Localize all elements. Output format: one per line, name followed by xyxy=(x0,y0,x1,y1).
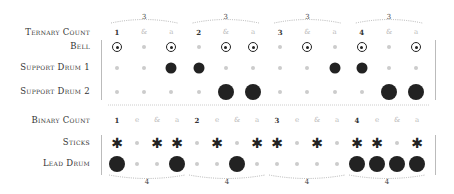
ternary-count-11: & xyxy=(386,28,392,36)
drum-hit-icon xyxy=(329,63,340,74)
rest-dot-icon xyxy=(169,90,173,94)
ternary-row-label-1: Bell xyxy=(70,41,90,51)
rest-dot-icon xyxy=(224,66,228,70)
bell-stroke-icon xyxy=(357,42,367,52)
drum-hit-large-icon xyxy=(169,156,185,172)
rest-dot-icon xyxy=(197,90,201,94)
binary-group-arc-1-label: 4 xyxy=(145,178,150,186)
ternary-count-8: & xyxy=(304,28,310,36)
drum-hit-large-icon xyxy=(349,156,365,172)
binary-count-11: & xyxy=(314,116,320,124)
rest-dot-icon xyxy=(195,141,199,145)
ternary-group-arc-4-label: 3 xyxy=(387,13,391,21)
rest-dot-icon xyxy=(387,45,391,49)
binary-count-7: & xyxy=(234,116,240,124)
ternary-count-12: a xyxy=(414,28,418,36)
rest-dot-icon xyxy=(275,162,279,166)
rest-dot-icon xyxy=(155,162,159,166)
bell-stroke-icon xyxy=(221,42,231,52)
ternary-count-1: 1 xyxy=(115,28,120,37)
bell-stroke-icon xyxy=(411,42,421,52)
binary-count-label: Binary Count xyxy=(31,115,90,125)
ternary-right-bar xyxy=(435,40,436,100)
ternary-count-label: Ternary Count xyxy=(25,27,90,37)
binary-count-3: & xyxy=(154,116,160,124)
rest-dot-icon xyxy=(395,141,399,145)
drum-hit-large-icon xyxy=(369,156,385,172)
drum-hit-large-icon xyxy=(381,84,397,100)
ternary-count-10: 4 xyxy=(359,28,364,37)
rest-dot-icon xyxy=(115,90,119,94)
stick-hit-icon: ✱ xyxy=(171,136,183,150)
binary-group-arc-2-label: 4 xyxy=(225,178,230,186)
drum-hit-large-icon xyxy=(218,84,234,100)
binary-count-6: e xyxy=(215,116,219,124)
drum-hit-large-icon xyxy=(409,156,425,172)
rest-dot-icon xyxy=(278,90,282,94)
stick-hit-icon: ✱ xyxy=(211,136,223,150)
rest-dot-icon xyxy=(135,141,139,145)
rest-dot-icon xyxy=(251,66,255,70)
drum-hit-icon xyxy=(356,63,367,74)
bell-stroke-icon xyxy=(302,42,312,52)
rest-dot-icon xyxy=(360,90,364,94)
binary-count-16: a xyxy=(415,116,419,124)
rest-dot-icon xyxy=(278,45,282,49)
ternary-count-2: & xyxy=(141,28,147,36)
bell-stroke-icon xyxy=(166,42,176,52)
bell-stroke-icon xyxy=(248,42,258,52)
rest-dot-icon xyxy=(295,162,299,166)
stick-hit-icon: ✱ xyxy=(311,136,323,150)
drum-hit-large-icon xyxy=(109,156,125,172)
rest-dot-icon xyxy=(315,162,319,166)
stick-hit-icon: ✱ xyxy=(371,136,383,150)
rest-dot-icon xyxy=(414,66,418,70)
binary-group-arc-3-label: 4 xyxy=(305,178,310,186)
binary-count-14: e xyxy=(375,116,379,124)
ternary-group-arc-3-label: 3 xyxy=(305,13,309,21)
rest-dot-icon xyxy=(215,162,219,166)
ternary-left-bar xyxy=(101,40,102,100)
rest-dot-icon xyxy=(335,141,339,145)
ternary-group-arc-2-label: 3 xyxy=(224,13,228,21)
binary-count-13: 4 xyxy=(355,116,360,125)
drum-hit-icon xyxy=(193,63,204,74)
ternary-count-4: 2 xyxy=(196,28,201,37)
drum-hit-large-icon xyxy=(408,84,424,100)
rest-dot-icon xyxy=(142,90,146,94)
stick-hit-icon: ✱ xyxy=(271,136,283,150)
stick-hit-icon: ✱ xyxy=(411,136,423,150)
binary-row-label-1: Sticks xyxy=(63,137,90,147)
rest-dot-icon xyxy=(278,66,282,70)
binary-count-15: & xyxy=(394,116,400,124)
ternary-count-6: a xyxy=(251,28,255,36)
binary-count-4: a xyxy=(175,116,179,124)
drum-hit-large-icon xyxy=(229,156,245,172)
stick-hit-icon: ✱ xyxy=(111,136,123,150)
drum-hit-icon xyxy=(166,63,177,74)
ternary-count-9: a xyxy=(333,28,337,36)
ternary-row-label-2: Support Drum 1 xyxy=(20,62,90,72)
rest-dot-icon xyxy=(142,45,146,49)
binary-count-12: a xyxy=(335,116,339,124)
stick-hit-icon: ✱ xyxy=(151,136,163,150)
binary-count-9: 3 xyxy=(275,116,280,125)
ternary-count-5: & xyxy=(223,28,229,36)
rest-dot-icon xyxy=(115,66,119,70)
bell-stroke-icon xyxy=(112,42,122,52)
rest-dot-icon xyxy=(335,162,339,166)
rest-dot-icon xyxy=(235,141,239,145)
ternary-count-7: 3 xyxy=(278,28,283,37)
rest-dot-icon xyxy=(135,162,139,166)
binary-count-1: 1 xyxy=(115,116,120,125)
rest-dot-icon xyxy=(305,66,309,70)
binary-count-8: a xyxy=(255,116,259,124)
binary-row-label-2: Lead Drum xyxy=(43,158,90,168)
stick-hit-icon: ✱ xyxy=(251,136,263,150)
rest-dot-icon xyxy=(197,45,201,49)
binary-right-bar xyxy=(435,135,436,175)
binary-group-arc-4-label: 4 xyxy=(385,178,390,186)
binary-count-10: e xyxy=(295,116,299,124)
drum-hit-large-icon xyxy=(245,84,261,100)
ternary-row-label-3: Support Drum 2 xyxy=(20,86,90,96)
